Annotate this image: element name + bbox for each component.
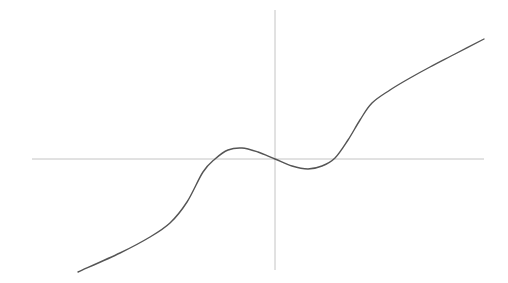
chart-plot-area bbox=[0, 0, 508, 283]
data-curve bbox=[78, 39, 484, 272]
